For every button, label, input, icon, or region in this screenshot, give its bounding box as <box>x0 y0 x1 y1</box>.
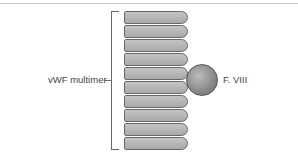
vwf-subunit <box>124 25 188 38</box>
vwf-subunit <box>124 67 188 80</box>
vwf-multimer-stack <box>124 11 188 151</box>
factor-viii-sphere <box>186 64 218 96</box>
top-divider <box>0 3 298 4</box>
vwf-subunit <box>124 109 188 122</box>
vwf-subunit <box>124 11 188 24</box>
vwf-subunit <box>124 81 188 94</box>
multimer-bracket <box>111 11 119 150</box>
bracket-leader-line <box>104 80 111 81</box>
vwf-subunit <box>124 137 188 150</box>
factor-viii-label: F. VIII <box>223 74 247 85</box>
vwf-subunit <box>124 53 188 66</box>
vwf-subunit <box>124 39 188 52</box>
vwf-subunit <box>124 123 188 136</box>
vwf-subunit <box>124 95 188 108</box>
vwf-multimer-label: vWF multimer <box>48 74 107 85</box>
